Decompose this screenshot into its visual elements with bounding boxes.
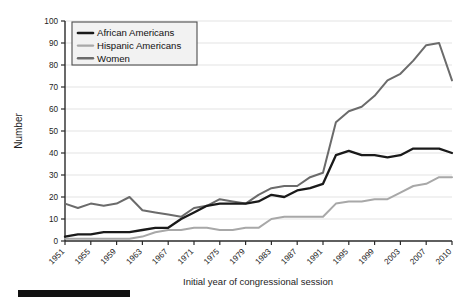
- y-tick-label: 20: [49, 193, 59, 202]
- y-tick-label: 40: [49, 149, 59, 158]
- y-tick-label: 0: [53, 237, 58, 246]
- x-axis-title: Initial year of congressional session: [183, 276, 333, 287]
- y-tick-label: 90: [49, 39, 59, 48]
- legend-label: Women: [97, 53, 130, 64]
- chart-figure: 0102030405060708090100 19511955195919631…: [0, 0, 471, 301]
- legend-label: African Americans: [97, 27, 175, 38]
- chart-legend: African AmericansHispanic AmericansWomen: [72, 22, 197, 65]
- y-tick-label: 50: [49, 127, 59, 136]
- y-tick-label: 30: [49, 171, 59, 180]
- y-tick-label: 100: [44, 17, 58, 26]
- caption-bar: [18, 290, 130, 297]
- y-tick-label: 10: [49, 215, 59, 224]
- y-axis-title: Number: [13, 113, 24, 149]
- line-chart: 0102030405060708090100 19511955195919631…: [0, 0, 471, 301]
- legend-label: Hispanic Americans: [97, 40, 181, 51]
- y-tick-label: 60: [49, 105, 59, 114]
- y-tick-label: 80: [49, 61, 59, 70]
- y-tick-label: 70: [49, 83, 59, 92]
